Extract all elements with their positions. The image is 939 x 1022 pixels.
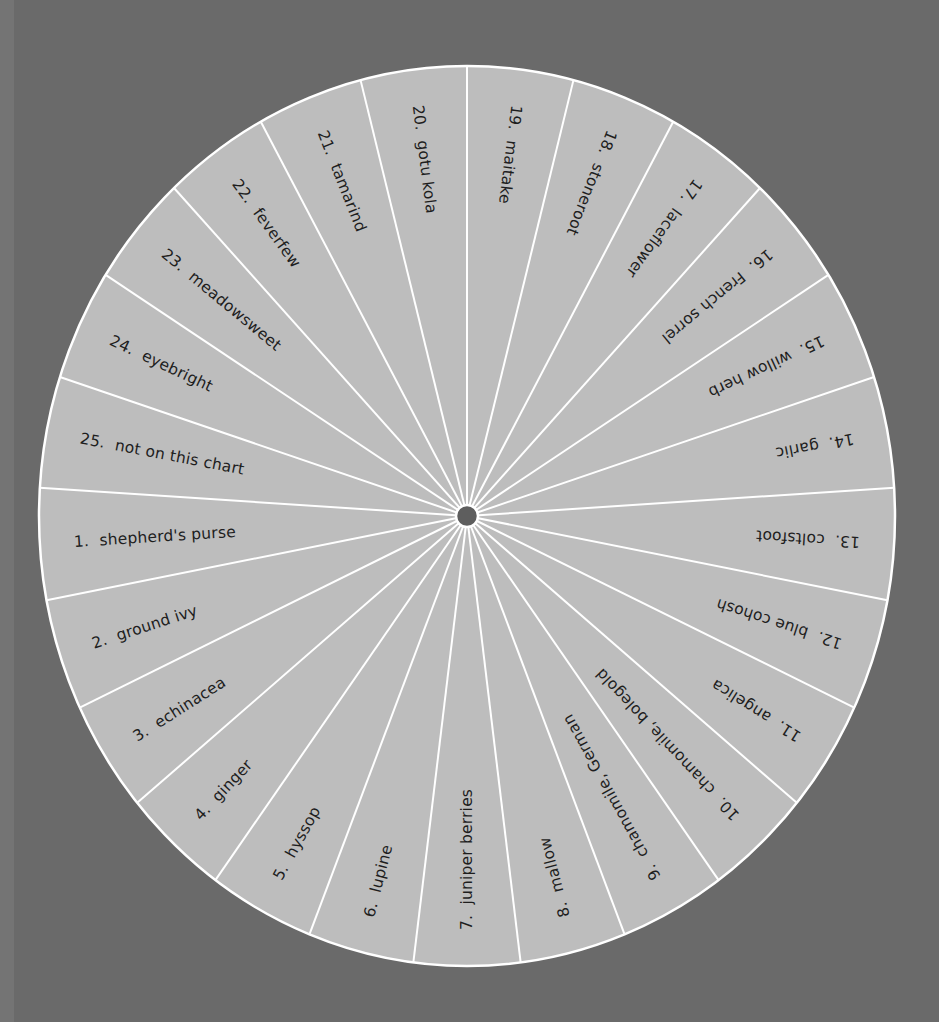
- center-hub: [456, 505, 478, 527]
- page-edge-shadow: [0, 0, 14, 1022]
- diagram-stage: 1. shepherd's purse2. ground ivy3. echin…: [0, 0, 939, 1022]
- herb-wheel: 1. shepherd's purse2. ground ivy3. echin…: [0, 0, 939, 1022]
- segment-label-7: 7. juniper berries: [458, 789, 476, 930]
